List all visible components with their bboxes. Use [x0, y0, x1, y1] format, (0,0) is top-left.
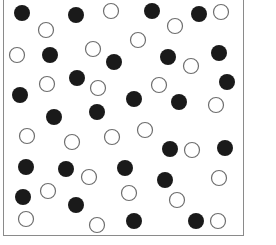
open-dot [65, 135, 80, 150]
open-dot [19, 212, 34, 227]
filled-dot [14, 5, 30, 21]
open-dot [104, 4, 119, 19]
open-dot [122, 186, 137, 201]
filled-dot [18, 159, 34, 175]
open-dot [214, 5, 229, 20]
filled-dot [162, 141, 178, 157]
filled-dot [171, 94, 187, 110]
filled-dot [58, 161, 74, 177]
filled-dot [106, 54, 122, 70]
filled-dot [217, 140, 233, 156]
filled-dot [117, 160, 133, 176]
dot-field [0, 0, 276, 245]
open-dot [152, 78, 167, 93]
filled-dot [68, 7, 84, 23]
open-dot [131, 33, 146, 48]
filled-dot [15, 189, 31, 205]
open-dot [20, 129, 35, 144]
open-dot [168, 19, 183, 34]
open-dot [170, 193, 185, 208]
open-dot [211, 214, 226, 229]
filled-dot [12, 87, 28, 103]
filled-dot [188, 213, 204, 229]
filled-dot [46, 109, 62, 125]
open-dot [138, 123, 153, 138]
filled-dot [69, 70, 85, 86]
filled-dot [219, 74, 235, 90]
filled-dot [211, 45, 227, 61]
filled-dot [144, 3, 160, 19]
filled-dot [126, 91, 142, 107]
filled-dot [157, 172, 173, 188]
open-dot [82, 170, 97, 185]
open-dot [86, 42, 101, 57]
open-dots [10, 4, 229, 233]
open-dot [10, 48, 25, 63]
filled-dot [126, 213, 142, 229]
open-dot [105, 130, 120, 145]
filled-dot [68, 197, 84, 213]
open-dot [185, 143, 200, 158]
open-dot [184, 59, 199, 74]
filled-dot [191, 6, 207, 22]
open-dot [40, 77, 55, 92]
filled-dot [89, 104, 105, 120]
open-dot [209, 98, 224, 113]
filled-dot [42, 47, 58, 63]
open-dot [41, 184, 56, 199]
open-dot [90, 218, 105, 233]
open-dot [212, 171, 227, 186]
filled-dot [160, 49, 176, 65]
open-dot [39, 23, 54, 38]
open-dot [91, 81, 106, 96]
